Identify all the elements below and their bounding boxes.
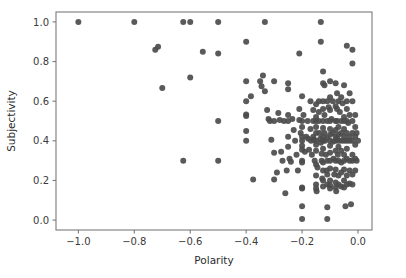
data-point: [333, 188, 339, 194]
data-point: [248, 93, 254, 99]
y-tick-label: 0.6: [33, 96, 49, 107]
y-tick-label: 0.0: [33, 215, 49, 226]
y-tick-label: 0.8: [33, 56, 49, 67]
data-point: [344, 106, 350, 112]
data-point: [333, 167, 339, 173]
data-point: [296, 106, 302, 112]
x-tick-label: 0.0: [350, 236, 366, 247]
data-point: [344, 146, 350, 152]
data-point: [341, 167, 347, 173]
data-point: [180, 158, 186, 164]
data-point: [296, 51, 302, 57]
y-tick-label: 0.4: [33, 135, 49, 146]
data-point: [344, 43, 350, 49]
data-point: [215, 51, 221, 57]
x-tick-label: −1.0: [66, 236, 90, 247]
data-point: [354, 158, 360, 164]
data-point: [347, 90, 353, 96]
data-point: [271, 78, 277, 84]
data-point: [324, 216, 330, 222]
data-point: [314, 165, 320, 171]
data-point: [313, 173, 319, 179]
plot-canvas: −1.0−0.8−0.6−0.4−0.20.00.00.20.40.60.81.…: [0, 0, 406, 278]
data-point: [243, 113, 249, 119]
scatter-plot-figure: −1.0−0.8−0.6−0.4−0.20.00.00.20.40.60.81.…: [0, 0, 406, 278]
data-point: [320, 146, 326, 152]
data-point: [324, 172, 330, 178]
data-point: [352, 168, 358, 174]
data-point: [349, 98, 355, 104]
data-point: [355, 138, 361, 144]
x-tick-label: −0.4: [234, 236, 258, 247]
data-point: [159, 85, 165, 91]
data-point: [282, 190, 288, 196]
data-point: [284, 168, 290, 174]
data-point: [243, 138, 249, 144]
x-tick-label: −0.8: [122, 236, 146, 247]
data-point: [215, 118, 221, 124]
data-point: [294, 152, 300, 158]
data-point: [299, 93, 305, 99]
data-points-group: [75, 19, 361, 222]
data-point: [285, 144, 291, 150]
data-point: [215, 19, 221, 25]
data-point: [271, 150, 277, 156]
data-point: [327, 78, 333, 84]
x-tick-label: −0.6: [178, 236, 202, 247]
data-point: [299, 216, 305, 222]
data-point: [292, 138, 298, 144]
data-point: [333, 80, 339, 86]
data-point: [352, 124, 358, 130]
data-point: [352, 112, 358, 118]
data-point: [320, 68, 326, 74]
data-point: [327, 150, 333, 156]
data-point: [131, 19, 137, 25]
x-axis-title: Polarity: [194, 254, 233, 266]
data-point: [243, 128, 249, 134]
data-point: [75, 19, 81, 25]
data-point: [243, 78, 249, 84]
data-point: [200, 49, 206, 55]
data-point: [307, 126, 313, 132]
data-point: [271, 118, 277, 124]
data-point: [349, 47, 355, 53]
data-point: [300, 112, 306, 118]
data-point: [321, 82, 327, 88]
data-point: [299, 118, 305, 124]
data-point: [291, 127, 297, 133]
data-point: [285, 80, 291, 86]
data-point: [215, 158, 221, 164]
data-point: [318, 39, 324, 45]
data-point: [187, 19, 193, 25]
data-point: [348, 201, 354, 207]
data-point: [295, 168, 301, 174]
data-point: [274, 170, 280, 176]
data-point: [299, 124, 305, 130]
data-point: [335, 124, 341, 130]
data-point: [289, 116, 295, 122]
data-point: [260, 72, 266, 78]
data-point: [243, 39, 249, 45]
data-point: [275, 110, 281, 116]
data-point: [180, 19, 186, 25]
data-point: [310, 107, 316, 113]
data-point: [278, 149, 284, 155]
data-point: [259, 83, 265, 89]
data-point: [285, 134, 291, 140]
data-point: [347, 112, 353, 118]
data-point: [313, 148, 319, 154]
data-point: [285, 86, 291, 92]
data-point: [250, 176, 256, 182]
data-point: [288, 159, 294, 165]
data-point: [280, 158, 286, 164]
data-point: [327, 107, 333, 113]
data-point: [243, 98, 249, 104]
data-point: [342, 203, 348, 209]
data-point: [354, 130, 360, 136]
data-point: [307, 98, 313, 104]
y-tick-label: 1.0: [33, 17, 49, 28]
data-point: [341, 82, 347, 88]
data-point: [344, 98, 350, 104]
data-point: [299, 160, 305, 166]
data-point: [299, 185, 305, 191]
